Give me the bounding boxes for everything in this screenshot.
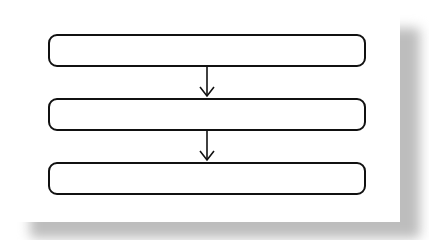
arrow-down-icon	[196, 66, 220, 100]
flow-box-1	[48, 34, 366, 67]
arrow-down-icon	[196, 130, 220, 164]
flow-box-2	[48, 98, 366, 131]
flow-box-3	[48, 162, 366, 195]
